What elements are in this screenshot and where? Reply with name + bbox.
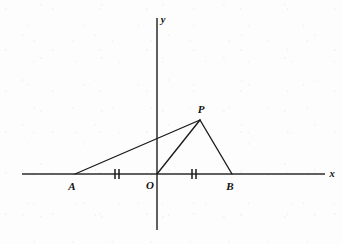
segment-pb — [200, 120, 232, 174]
segment-ap — [75, 120, 200, 174]
y-axis-label: y — [159, 14, 166, 25]
segment-op — [157, 120, 200, 174]
geometry-figure: x y A O B P — [0, 0, 342, 244]
point-label-p: P — [198, 103, 205, 115]
point-label-o: O — [146, 179, 154, 191]
x-axis-label: x — [328, 168, 334, 179]
point-label-b: B — [225, 180, 233, 192]
coordinate-diagram: x y A O B P — [0, 0, 342, 244]
point-label-a: A — [67, 180, 75, 192]
